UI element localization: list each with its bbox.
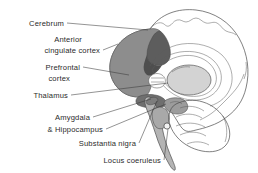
locus-coeruleus-body: [164, 123, 170, 129]
structure-thalamus: [167, 65, 211, 95]
label-anterior: Anterior: [54, 35, 82, 44]
label-cortex: cortex: [48, 74, 70, 83]
structure-fornix: [149, 74, 166, 89]
label-locus-coeruleus: Locus coeruleus: [103, 156, 161, 165]
thalamus-body: [167, 65, 211, 95]
label-thalamus: Thalamus: [33, 91, 68, 100]
brain-illustration-svg: Cerebrum Anterior cingulate cortex Prefr…: [0, 0, 258, 173]
structure-locus-coeruleus: [164, 123, 170, 129]
label-substantia-nigra: Substantia nigra: [79, 139, 137, 148]
label-hippocampus: & Hippocampus: [47, 125, 103, 134]
label-prefrontal: Prefrontal: [46, 63, 81, 72]
label-cingulate-cortex: cingulate cortex: [44, 46, 100, 55]
label-amygdala: Amygdala: [55, 113, 91, 122]
brain-diagram-figure: Cerebrum Anterior cingulate cortex Prefr…: [0, 0, 258, 173]
label-cerebrum: Cerebrum: [29, 19, 64, 28]
